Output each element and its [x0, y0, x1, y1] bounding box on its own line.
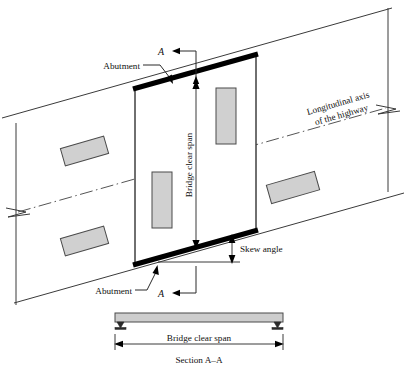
section-caption: Section A–A — [175, 355, 223, 365]
abutment-bottom-leader-arrow — [153, 265, 159, 275]
abutment-top-label: Abutment — [103, 61, 140, 71]
section-support-left-base — [115, 328, 126, 330]
section-bearing-left — [117, 322, 124, 328]
vehicle-left-lower — [60, 226, 108, 256]
section-support-right-base — [272, 328, 283, 330]
abutment-bottom-label: Abutment — [95, 286, 132, 296]
diagram-canvas: Bridge clear span A A — [0, 0, 404, 372]
section-beam — [115, 313, 283, 322]
vehicle-left-upper — [60, 136, 108, 166]
skew-arrow-down — [229, 255, 236, 264]
section-marker-bottom: A — [157, 266, 196, 299]
vehicle-right — [266, 171, 319, 203]
bridge-clear-span-plan-label: Bridge clear span — [184, 132, 194, 197]
bridge-skew-diagram: Bridge clear span A A — [0, 0, 404, 372]
vehicle-deck-upper — [216, 88, 236, 144]
section-arrow-bottom-left — [172, 290, 180, 296]
section-a-a-view: Bridge clear span Section A–A — [114, 313, 284, 365]
section-marker-bottom-label: A — [157, 288, 165, 299]
section-arrow-top-left — [172, 48, 180, 54]
section-marker-top-label: A — [157, 46, 165, 57]
skew-angle-label: Skew angle — [240, 244, 283, 254]
longitudinal-axis-callout: Longitudinal axis of the highway — [306, 89, 375, 128]
bridge-clear-span-section-label: Bridge clear span — [167, 333, 232, 343]
section-bearing-right — [274, 322, 281, 328]
vehicle-deck-lower — [152, 172, 172, 228]
abutment-bottom-callout: Abutment — [95, 265, 159, 296]
abutment-bottom-leader-diagonal — [147, 272, 156, 290]
